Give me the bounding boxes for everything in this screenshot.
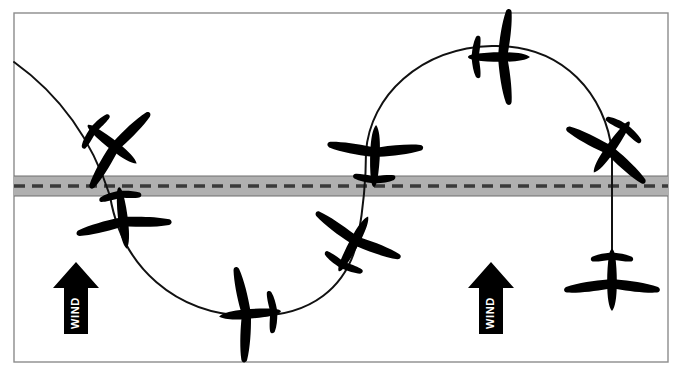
flight-pattern-diagram: WINDWIND [0,0,685,377]
wind-label: WIND [69,297,81,329]
wind-arrow-left: WIND [53,262,99,334]
aircraft-top-center [468,9,530,105]
aircraft-center-climb [297,194,411,294]
wind-arrow-group: WINDWIND [53,262,514,334]
aircraft-right-lower [564,249,660,311]
diagram-canvas: WINDWIND [0,0,685,377]
wind-label: WIND [484,297,496,329]
wind-arrow-right: WIND [468,262,514,334]
aircraft-bottom-center [215,264,285,365]
